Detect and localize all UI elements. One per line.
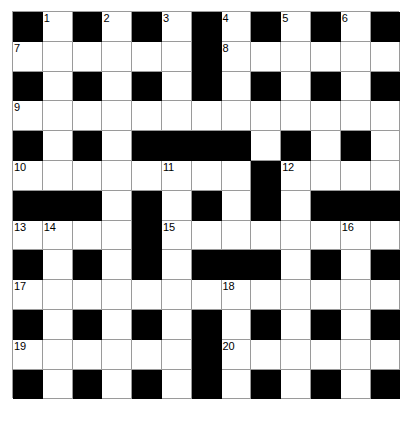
crossword-cell[interactable]: 14 [43,221,73,251]
crossword-cell[interactable] [132,161,162,191]
crossword-cell[interactable] [281,72,311,102]
crossword-cell[interactable] [341,72,371,102]
crossword-cell[interactable] [162,191,192,221]
crossword-cell[interactable] [222,191,252,221]
crossword-cell[interactable] [192,101,222,131]
crossword-cell[interactable] [102,310,132,340]
crossword-cell[interactable] [43,101,73,131]
crossword-cell[interactable]: 3 [162,12,192,42]
crossword-cell[interactable] [341,161,371,191]
crossword-cell[interactable]: 1 [43,12,73,42]
crossword-cell[interactable] [371,42,401,72]
crossword-cell[interactable] [281,221,311,251]
crossword-cell[interactable] [43,340,73,370]
crossword-cell[interactable] [43,161,73,191]
crossword-cell[interactable] [281,42,311,72]
crossword-cell[interactable] [281,280,311,310]
crossword-cell[interactable] [281,370,311,400]
crossword-cell[interactable] [43,72,73,102]
crossword-cell[interactable] [73,280,103,310]
crossword-cell[interactable] [73,340,103,370]
crossword-cell[interactable] [341,250,371,280]
crossword-cell[interactable]: 16 [341,221,371,251]
crossword-cell[interactable] [311,131,341,161]
crossword-cell[interactable] [281,250,311,280]
crossword-cell[interactable]: 20 [222,340,252,370]
crossword-cell[interactable]: 11 [162,161,192,191]
crossword-cell[interactable] [162,250,192,280]
crossword-cell[interactable] [132,340,162,370]
crossword-cell[interactable] [132,101,162,131]
crossword-grid[interactable]: 1234567891011121314151617181920 [12,11,399,398]
crossword-cell[interactable] [102,221,132,251]
crossword-cell[interactable] [311,221,341,251]
crossword-cell[interactable]: 2 [102,12,132,42]
crossword-cell[interactable] [222,370,252,400]
crossword-cell[interactable] [162,72,192,102]
crossword-cell[interactable] [341,280,371,310]
crossword-cell[interactable] [371,340,401,370]
crossword-cell[interactable] [222,221,252,251]
crossword-cell[interactable] [132,42,162,72]
crossword-cell[interactable] [73,221,103,251]
crossword-cell[interactable] [73,101,103,131]
crossword-cell[interactable] [341,370,371,400]
crossword-cell[interactable] [102,161,132,191]
crossword-cell[interactable] [132,280,162,310]
crossword-cell[interactable]: 19 [13,340,43,370]
crossword-cell[interactable] [43,280,73,310]
crossword-cell[interactable]: 10 [13,161,43,191]
crossword-cell[interactable] [162,280,192,310]
crossword-cell[interactable] [102,340,132,370]
crossword-cell[interactable]: 4 [222,12,252,42]
crossword-cell[interactable] [102,42,132,72]
crossword-cell[interactable] [281,101,311,131]
crossword-cell[interactable] [162,340,192,370]
crossword-cell[interactable] [281,310,311,340]
crossword-cell[interactable] [222,310,252,340]
crossword-cell[interactable] [341,340,371,370]
crossword-cell[interactable] [371,131,401,161]
crossword-cell[interactable] [102,101,132,131]
crossword-cell[interactable] [222,161,252,191]
crossword-cell[interactable] [102,191,132,221]
crossword-cell[interactable]: 15 [162,221,192,251]
crossword-cell[interactable] [371,101,401,131]
crossword-cell[interactable] [311,340,341,370]
crossword-cell[interactable] [192,280,222,310]
crossword-cell[interactable]: 17 [13,280,43,310]
crossword-cell[interactable] [371,221,401,251]
crossword-cell[interactable] [102,370,132,400]
crossword-cell[interactable] [251,101,281,131]
crossword-cell[interactable]: 7 [13,42,43,72]
crossword-cell[interactable] [371,280,401,310]
crossword-cell[interactable] [192,221,222,251]
crossword-cell[interactable] [43,310,73,340]
crossword-cell[interactable] [162,101,192,131]
crossword-cell[interactable] [162,370,192,400]
crossword-cell[interactable] [311,101,341,131]
crossword-cell[interactable] [251,221,281,251]
crossword-cell[interactable] [371,161,401,191]
crossword-cell[interactable] [102,131,132,161]
crossword-cell[interactable] [281,340,311,370]
crossword-cell[interactable] [251,280,281,310]
crossword-cell[interactable] [102,250,132,280]
crossword-cell[interactable] [73,161,103,191]
crossword-cell[interactable]: 6 [341,12,371,42]
crossword-cell[interactable] [311,161,341,191]
crossword-cell[interactable] [43,131,73,161]
crossword-cell[interactable] [222,101,252,131]
crossword-cell[interactable] [222,72,252,102]
crossword-cell[interactable] [43,250,73,280]
crossword-cell[interactable] [281,191,311,221]
crossword-cell[interactable]: 18 [222,280,252,310]
crossword-cell[interactable] [341,101,371,131]
crossword-cell[interactable] [162,42,192,72]
crossword-cell[interactable]: 13 [13,221,43,251]
crossword-cell[interactable] [192,161,222,191]
crossword-cell[interactable] [251,131,281,161]
crossword-cell[interactable]: 9 [13,101,43,131]
crossword-cell[interactable]: 8 [222,42,252,72]
crossword-cell[interactable] [102,280,132,310]
